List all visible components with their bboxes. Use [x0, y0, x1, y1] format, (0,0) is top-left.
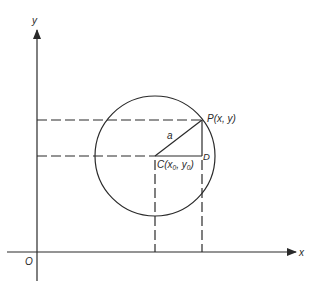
origin-label: O: [25, 256, 33, 267]
radius-label: a: [167, 130, 173, 141]
point-p-label: P(x, y): [207, 113, 236, 124]
point-c-label: C(x0, y0): [157, 159, 194, 171]
y-axis-label: y: [31, 15, 38, 26]
circle-diagram: y x O P(x, y) D a C(x0, y0): [0, 0, 319, 297]
radius-line-cp: [155, 120, 202, 156]
diagram-canvas: y x O P(x, y) D a C(x0, y0): [0, 0, 319, 297]
x-axis-label: x: [298, 247, 305, 258]
point-d-label: D: [203, 151, 210, 162]
